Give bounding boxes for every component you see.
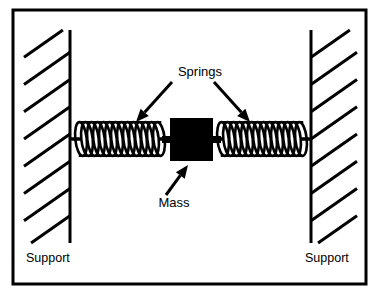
mass-label: Mass (158, 195, 190, 210)
left-support-label: Support (26, 251, 70, 265)
diagram-canvas: Springs Mass Support Support (0, 0, 380, 296)
mass-right-connector-tab (213, 136, 221, 143)
mass-body (170, 118, 213, 161)
right-support-label: Support (305, 251, 349, 265)
mass-left-connector-tab (162, 136, 170, 143)
mass-block (162, 118, 221, 161)
springs-label: Springs (178, 64, 223, 79)
spring-mass-diagram: Springs Mass Support Support (0, 0, 380, 296)
